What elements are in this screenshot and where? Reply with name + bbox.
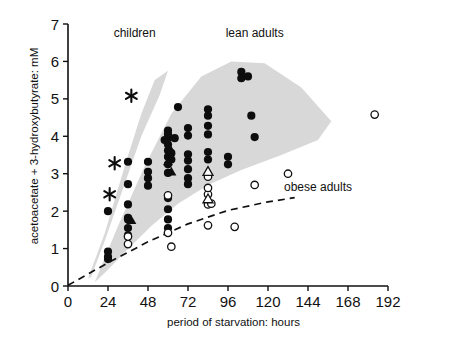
y-tick-label: 4 [51,128,59,145]
data-point-filled-circle [224,160,232,168]
x-tick-label: 192 [375,293,400,310]
annotation-children: children [114,26,156,40]
data-point-filled-circle [124,200,132,208]
data-point-open-circle [284,170,291,177]
data-point-open-circle [124,240,131,247]
annotation-lean-adults: lean adults [226,26,284,40]
data-point-filled-circle [237,68,245,76]
data-point-filled-circle [164,205,172,213]
y-tick-label: 0 [51,278,59,295]
data-point-filled-circle [164,215,172,223]
data-point-filled-circle [251,133,259,141]
data-point-open-circle [164,192,171,199]
data-point-open-circle [164,229,171,236]
data-point-open-circle [204,222,211,229]
data-point-filled-circle [204,122,212,130]
data-point-filled-circle [144,168,152,176]
x-tick-label: 120 [255,293,280,310]
x-tick-label: 144 [295,293,320,310]
data-point-filled-circle [174,103,182,111]
data-point-filled-circle [224,153,232,161]
data-point-filled-circle [244,72,252,80]
x-tick-label: 0 [64,293,72,310]
data-point-filled-circle [104,255,112,263]
chart-figure: 01234567024487296120144168192childrenlea… [0,0,467,339]
data-point-filled-circle [204,148,212,156]
data-point-filled-circle [204,130,212,138]
data-point-filled-circle [184,150,192,158]
data-point-filled-circle [184,131,192,139]
data-point-open-circle [231,223,238,230]
data-point-filled-circle [144,182,152,190]
data-point-filled-circle [184,165,192,173]
y-axis-label: acetoacetate + 3-hydroxybutyrate: mM [28,16,40,276]
x-axis-label: period of starvation: hours [0,316,467,328]
data-point-filled-circle [204,155,212,163]
y-tick-label: 2 [51,203,59,220]
data-point-filled-circle [204,105,212,113]
data-point-filled-circle [124,158,132,166]
x-tick-label: 48 [140,293,157,310]
data-point-filled-circle [247,112,255,120]
data-point-filled-circle [184,174,192,182]
data-point-open-circle [371,111,378,118]
y-tick-label: 5 [51,90,59,107]
data-point-open-circle [204,184,211,191]
y-tick-label: 1 [51,240,59,257]
data-point-open-circle [251,181,258,188]
x-tick-label: 72 [180,293,197,310]
annotation-obese-adults: obese adults [284,180,352,194]
chart-canvas: 01234567024487296120144168192childrenlea… [0,0,467,339]
x-tick-label: 24 [100,293,117,310]
data-point-filled-circle [164,127,172,135]
data-point-filled-circle [144,158,152,166]
data-point-filled-circle [184,124,192,132]
data-point-filled-circle [124,224,132,232]
data-point-open-circle [168,243,175,250]
data-point-filled-circle [124,180,132,188]
y-tick-label: 3 [51,165,59,182]
data-point-filled-circle [161,136,169,144]
x-tick-label: 168 [335,293,360,310]
data-point-filled-circle [104,207,112,215]
data-point-filled-circle [171,134,179,142]
data-point-open-circle [124,233,131,240]
y-tick-label: 6 [51,53,59,70]
x-tick-label: 96 [220,293,237,310]
y-tick-label: 7 [51,16,59,33]
